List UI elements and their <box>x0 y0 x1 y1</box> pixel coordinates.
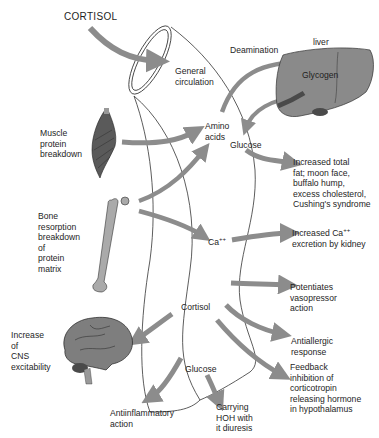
label-liver: liver <box>313 37 329 48</box>
label-glycogen: Glycogen <box>302 70 338 81</box>
arrow-antiinflammatory <box>150 358 181 398</box>
label-antiinflammatory: Antiinflammatory action <box>110 408 174 429</box>
label-antiallergic: Antiallergic response <box>291 336 333 357</box>
label-cns: Increase of CNS excitability <box>11 330 51 372</box>
label-glucose-top: Glucose <box>230 140 262 151</box>
label-cortisol-center: Cortisol <box>181 302 210 313</box>
label-deamination: Deamination <box>230 45 278 56</box>
arrow-antiallergic <box>226 305 282 334</box>
arrow-diuresis <box>207 375 219 402</box>
label-increased-ca: Increased Ca++excretion by kidney <box>292 228 366 249</box>
label-ca: Ca++ <box>208 237 226 248</box>
label-general-circulation: General circulation <box>175 66 214 87</box>
increased-ca-superscript: ++ <box>343 227 350 233</box>
arrow-bone-amino <box>139 150 204 201</box>
diagram-title: CORTISOL <box>64 12 117 23</box>
label-feedback: Feedback inhibition of corticotropin rel… <box>290 362 361 415</box>
label-increased-fat: Increased total fat; moon face, buffalo … <box>293 157 371 210</box>
label-potentiates: Potentiates vasopressor action <box>290 282 337 314</box>
muscle-icon <box>92 108 116 178</box>
label-bone: Bone resorption breakdown of protein mat… <box>38 211 80 275</box>
femur-bone-icon <box>93 197 129 292</box>
arrow-ca-kidney <box>232 233 290 240</box>
arrow-bone-ca <box>139 211 203 236</box>
ca-text: Ca <box>208 237 219 247</box>
arrow-feedback <box>217 320 282 375</box>
increased-ca-text: Increased Ca <box>292 228 343 238</box>
label-carrying: Carrying HOH with it diuresis <box>216 402 253 434</box>
arrow-brain <box>136 314 172 340</box>
excretion-text: excretion by kidney <box>292 239 366 249</box>
label-amino-acids: Amino acids <box>205 121 229 142</box>
label-glucose-bottom: Glucose <box>185 364 217 375</box>
ca-superscript: ++ <box>219 236 226 242</box>
arrow-muscle-amino <box>122 131 196 143</box>
label-muscle: Muscle protein breakdown <box>40 128 82 160</box>
arrow-vasopressor <box>231 283 288 285</box>
arrow-glucose-fat <box>246 150 292 163</box>
liver-icon <box>276 48 373 117</box>
brain-icon <box>64 317 133 384</box>
